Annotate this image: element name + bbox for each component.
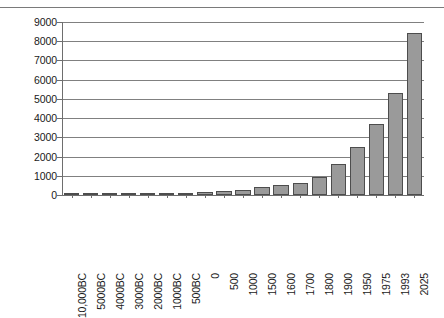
y-axis-tick-label: 3000 [5, 132, 57, 142]
x-axis-tick-label: 2000BC [152, 273, 164, 310]
x-tick-mark [224, 195, 225, 198]
x-axis-tick-label: 500BC [190, 273, 202, 304]
bar [254, 187, 269, 195]
bar [273, 185, 288, 195]
y-tick-mark [57, 176, 62, 177]
x-axis-tick-label: 1900 [342, 273, 354, 296]
x-tick-mark [186, 195, 187, 198]
x-axis-tick-label: 1500 [266, 273, 278, 296]
x-axis-tick-label: 1975 [380, 273, 392, 296]
x-axis-labels: 10,000BC5000BC4000BC3000BC2000BC1000BC50… [62, 197, 424, 276]
x-tick-mark [243, 195, 244, 198]
x-axis-tick-label: 1993 [399, 273, 411, 296]
x-axis-tick-label: 4000BC [114, 273, 126, 310]
y-tick-mark [57, 137, 62, 138]
x-tick-mark [376, 195, 377, 198]
x-axis-tick-label: 1800 [323, 273, 335, 296]
bar [331, 164, 346, 195]
y-tick-mark [57, 60, 62, 61]
bar [312, 177, 327, 195]
y-axis-labels: 0100020003000400050006000700080009000 [0, 0, 57, 276]
y-tick-mark [57, 118, 62, 119]
x-axis-tick-label: 500 [228, 273, 240, 290]
bar [407, 33, 422, 195]
y-tick-mark [57, 80, 62, 81]
bar [293, 183, 308, 195]
y-tick-mark [57, 41, 62, 42]
x-tick-mark [110, 195, 111, 198]
y-axis-tick-label: 7000 [5, 55, 57, 65]
y-axis-tick-label: 8000 [5, 36, 57, 46]
x-tick-mark [72, 195, 73, 198]
y-axis-tick-label: 6000 [5, 75, 57, 85]
x-tick-mark [357, 195, 358, 198]
y-axis-tick-label: 1000 [5, 171, 57, 181]
y-tick-mark [57, 157, 62, 158]
x-tick-mark [205, 195, 206, 198]
x-axis-tick-label: 10,000BC [76, 273, 88, 318]
x-tick-mark [338, 195, 339, 198]
x-axis-tick-label: 2025 [418, 273, 430, 296]
x-tick-mark [319, 195, 320, 198]
x-tick-mark [129, 195, 130, 198]
x-tick-mark [262, 195, 263, 198]
x-axis-tick-label: 3000BC [133, 273, 145, 310]
top-divider-rule [0, 7, 444, 8]
x-tick-mark [91, 195, 92, 198]
bar [388, 93, 403, 195]
y-tick-mark [57, 195, 62, 196]
y-axis-tick-label: 0 [5, 190, 57, 200]
bar [369, 124, 384, 195]
x-axis-tick-label: 1600 [285, 273, 297, 296]
y-axis-tick-label: 2000 [5, 152, 57, 162]
x-tick-mark [300, 195, 301, 198]
y-axis-tick-label: 4000 [5, 113, 57, 123]
y-tick-mark [57, 22, 62, 23]
x-tick-mark [167, 195, 168, 198]
x-axis-tick-label: 1700 [304, 273, 316, 296]
x-axis-tick-label: 1950 [361, 273, 373, 296]
x-axis-tick-label: 1000BC [171, 273, 183, 310]
x-axis-tick-label: 1000 [247, 273, 259, 296]
x-tick-mark [148, 195, 149, 198]
y-axis-tick-label: 9000 [5, 17, 57, 27]
x-axis-tick-label: 5000BC [95, 273, 107, 310]
x-tick-mark [395, 195, 396, 198]
x-tick-mark [281, 195, 282, 198]
x-tick-mark [414, 195, 415, 198]
bar-series [62, 22, 424, 195]
y-tick-mark [57, 99, 62, 100]
y-axis-tick-label: 5000 [5, 94, 57, 104]
bar [350, 147, 365, 195]
x-axis-tick-label: 0 [209, 273, 221, 279]
